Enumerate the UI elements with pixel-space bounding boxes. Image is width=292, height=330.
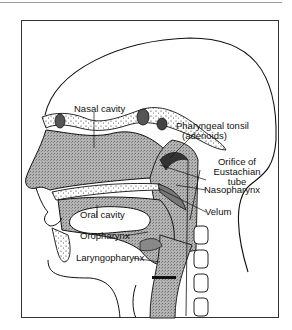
posterior-sinus	[157, 118, 167, 130]
trachea-wall	[133, 285, 136, 318]
frontal-sinus	[55, 114, 65, 128]
label-adenoids: (adenoids)	[182, 131, 227, 141]
label-oral-cavity: Oral cavity	[80, 210, 125, 220]
vocal-fold	[152, 276, 176, 279]
label-laryngopharynx: Laryngopharynx	[76, 253, 144, 263]
label-velum: Velum	[205, 207, 231, 217]
label-nasopharynx: Nasopharynx	[204, 185, 260, 195]
label-nasal-cavity: Nasal cavity	[74, 104, 125, 114]
label-oropharynx: Oropharynx	[80, 231, 130, 241]
sphenoid-sinus	[137, 109, 149, 125]
cervical-vertebrae	[194, 226, 208, 316]
nasal-cavity	[26, 130, 165, 190]
chin-neck	[48, 260, 120, 318]
mandible	[52, 228, 70, 262]
